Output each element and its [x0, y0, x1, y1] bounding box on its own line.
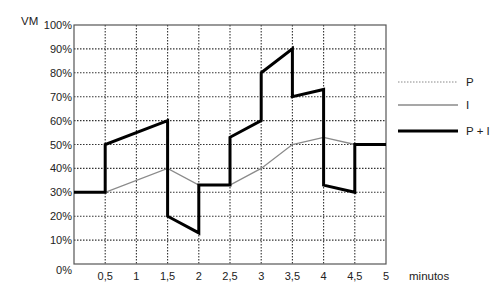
y-tick-label: 30%	[50, 186, 72, 198]
y-tick-label: 80%	[50, 67, 72, 79]
x-tick-label: 5	[383, 270, 389, 282]
x-tick-label: 3	[258, 270, 264, 282]
x-axis-title: minutos	[409, 270, 450, 282]
x-tick-label: 4	[321, 270, 327, 282]
x-tick-label: 1,5	[160, 270, 175, 282]
chart: 0%10%20%30%40%50%60%70%80%90%100% 0,511,…	[0, 0, 504, 299]
legend-label-i: I	[466, 99, 469, 111]
x-tick-label: 2	[196, 270, 202, 282]
y-tick-label: 10%	[50, 234, 72, 246]
legend-label-p: P	[466, 76, 474, 88]
x-tick-label: 3,5	[285, 270, 300, 282]
y-axis-tick-labels: 0%10%20%30%40%50%60%70%80%90%100%	[44, 19, 72, 276]
y-tick-label: 70%	[50, 91, 72, 103]
y-tick-label: 0%	[56, 264, 72, 276]
y-tick-label: 50%	[50, 139, 72, 151]
y-tick-label: 40%	[50, 162, 72, 174]
y-tick-label: 20%	[50, 210, 72, 222]
legend: P I P + I	[398, 76, 490, 137]
legend-label-p-plus-i: P + I	[466, 125, 490, 137]
x-tick-label: 4,5	[347, 270, 362, 282]
y-tick-label: 90%	[50, 43, 72, 55]
y-tick-label: 100%	[44, 19, 72, 31]
x-tick-label: 0,5	[98, 270, 113, 282]
x-tick-label: 2,5	[222, 270, 237, 282]
x-axis-tick-labels: 0,511,522,533,544,55	[98, 270, 390, 282]
y-axis-title: VM	[21, 15, 38, 27]
y-tick-label: 60%	[50, 115, 72, 127]
x-tick-label: 1	[133, 270, 139, 282]
